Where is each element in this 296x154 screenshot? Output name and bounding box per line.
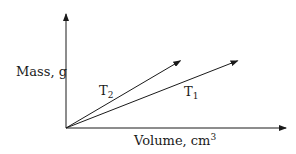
series-line-t2: [66, 61, 180, 128]
y-axis-label: Mass, g: [16, 64, 67, 79]
series-label-t1-base: T: [184, 84, 193, 99]
series-label-t1: T1: [184, 84, 198, 101]
x-axis-label-superscript: 3: [210, 132, 216, 142]
x-axis-label-text: Volume, cm: [133, 133, 210, 148]
series-label-t2: T2: [99, 83, 113, 100]
series-label-t2-base: T: [99, 83, 108, 98]
series-layer: [66, 61, 238, 128]
series-label-t2-sub: 2: [108, 90, 114, 100]
mass-volume-chart: Mass, g T2 T1 Volume, cm3: [0, 0, 296, 154]
series-label-t1-sub: 1: [193, 91, 199, 101]
series-line-t1: [66, 61, 238, 128]
x-axis-label: Volume, cm3: [133, 132, 216, 148]
